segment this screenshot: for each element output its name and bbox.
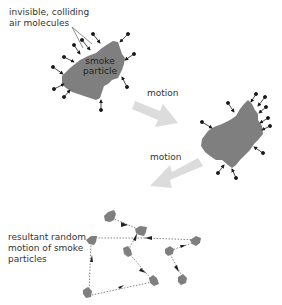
motion-arrow-1 — [132, 101, 178, 127]
molecules-label-line1: invisible, colliding — [9, 7, 89, 17]
motion-label-2: motion — [150, 152, 182, 162]
smoke-particle-2 — [201, 100, 263, 168]
motion-arrow-2 — [150, 158, 203, 188]
smoke-particle-label-line2: particle — [80, 66, 120, 76]
resultant-label-line2: motion of smoke — [8, 243, 83, 253]
molecules-label-line2: air molecules — [9, 18, 69, 28]
small-smoke-particles — [83, 210, 201, 298]
resultant-label-line1: resultant random — [8, 232, 86, 242]
brownian-motion-diagram: invisible, colliding air molecules smoke… — [0, 0, 282, 305]
motion-label-1: motion — [147, 88, 179, 98]
resultant-label-line3: particles — [8, 254, 47, 264]
smoke-particle-label-line1: smoke — [80, 56, 120, 66]
